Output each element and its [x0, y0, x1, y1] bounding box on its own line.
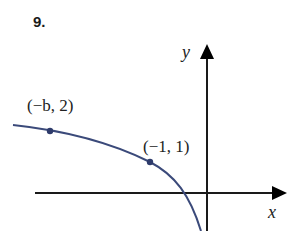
point-neg-b-2 — [47, 128, 53, 134]
point-label-neg-1-1: (−1, 1) — [143, 137, 189, 156]
y-axis-label: y — [180, 42, 190, 62]
point-neg-1-1 — [147, 159, 153, 165]
x-axis-arrow-icon — [272, 186, 287, 200]
y-axis-arrow-icon — [200, 44, 214, 59]
y-axis — [200, 44, 214, 231]
function-graph: (−b, 2) (−1, 1) y x — [0, 0, 296, 231]
point-label-neg-b-2: (−b, 2) — [27, 96, 73, 115]
x-axis — [35, 186, 287, 200]
x-axis-label: x — [267, 202, 276, 222]
